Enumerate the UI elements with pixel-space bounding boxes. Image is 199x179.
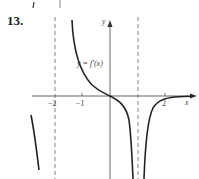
tick-label-neg2: −2 [48,99,57,108]
y-axis-arrow [108,20,113,27]
y-axis-label: y [101,17,106,26]
derivative-graph: −2 −1 2 x y y = f′(x) [0,0,199,179]
tick-label-neg1: −1 [76,99,85,108]
curve-right-branch [144,96,193,179]
curve-left-branch [31,115,39,170]
x-axis-label: x [184,98,189,107]
